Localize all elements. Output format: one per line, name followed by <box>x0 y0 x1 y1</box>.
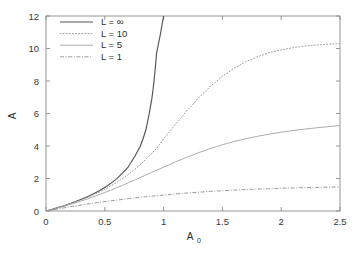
x-tick-label: 2 <box>279 216 284 227</box>
series-line-L-1 <box>46 187 340 211</box>
x-tick-label: 2.5 <box>333 216 346 227</box>
legend-item-L-5: L = 5 <box>60 39 122 50</box>
chart-plot: 00.511.522.5 024681012 A A 0 L = ∞L = 10… <box>0 0 360 257</box>
legend-label: L = 10 <box>101 28 127 39</box>
series-line-L-5 <box>46 126 340 211</box>
x-axis-tick-labels: 00.511.522.5 <box>43 216 346 227</box>
y-axis-tick-labels: 024681012 <box>28 11 39 217</box>
legend-item-L-1: L = 1 <box>60 51 122 62</box>
x-axis-label-subscript: 0 <box>197 237 201 244</box>
y-tick-label: 0 <box>34 206 39 217</box>
y-tick-label: 6 <box>34 108 39 119</box>
y-tick-label: 8 <box>34 76 39 87</box>
y-tick-label: 10 <box>28 43 39 54</box>
legend-item-L-10: L = 10 <box>60 28 127 39</box>
chart-legend: L = ∞L = 10L = 5L = 1 <box>60 16 127 62</box>
legend-label: L = 5 <box>101 39 122 50</box>
legend-label: L = ∞ <box>101 16 124 27</box>
x-tick-label: 1.5 <box>216 216 229 227</box>
x-tick-label: 1 <box>161 216 166 227</box>
series-line-L-10 <box>46 44 340 211</box>
x-tick-label: 0.5 <box>98 216 111 227</box>
x-tick-label: 0 <box>43 216 48 227</box>
legend-item-L-infinity: L = ∞ <box>60 16 124 27</box>
legend-label: L = 1 <box>101 51 122 62</box>
y-tick-label: 12 <box>28 11 39 22</box>
x-axis-label-base: A <box>187 231 194 242</box>
x-axis-label: A 0 <box>187 231 201 244</box>
y-tick-label: 4 <box>34 141 39 152</box>
y-tick-label: 2 <box>34 173 39 184</box>
chart-figure: 00.511.522.5 024681012 A A 0 L = ∞L = 10… <box>0 0 360 257</box>
y-axis-label: A <box>7 112 18 119</box>
y-axis-label-text: A <box>7 112 18 119</box>
